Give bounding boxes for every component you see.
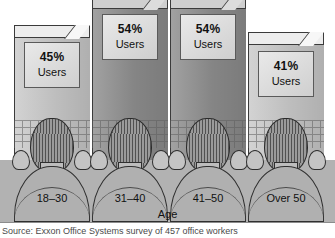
monitor-cap-bevel-3 [220, 0, 246, 10]
person-figure-2 [92, 112, 168, 222]
hand-left-3 [168, 150, 186, 170]
x-tick-label-1: 18–30 [14, 192, 90, 204]
monitor-cap-bevel-2 [142, 0, 168, 10]
hand-right-4 [308, 150, 326, 170]
bar-value-label-3: 54% [196, 23, 221, 37]
monitor-top-cap-3 [170, 0, 246, 9]
x-tick-label-4: Over 50 [248, 192, 324, 204]
bar-value-label-4: 41% [274, 60, 299, 74]
hand-left-4 [246, 150, 264, 170]
bar-users-label-2: Users [116, 38, 145, 51]
bar-users-label-3: Users [194, 38, 223, 51]
monitor-top-cap-4 [248, 32, 324, 45]
x-axis-title: Age [0, 208, 335, 220]
footer-divider [0, 222, 335, 223]
monitor-cap-bevel-4 [298, 32, 324, 46]
monitor-screen-4: 41% Users [258, 51, 314, 97]
bar-value-label-1: 45% [40, 51, 65, 65]
person-figure-1 [14, 112, 90, 222]
monitor-cap-bevel-1 [64, 25, 90, 39]
monitor-top-cap-2 [92, 0, 168, 9]
source-note: Source: Exxon Office Systems survey of 4… [2, 226, 335, 236]
person-figure-4 [248, 112, 324, 222]
x-tick-label-3: 41–50 [170, 192, 246, 204]
hand-left-1 [12, 150, 30, 170]
bar-users-label-1: Users [38, 66, 67, 79]
monitor-screen-2: 54% Users [102, 14, 158, 60]
bar-users-label-4: Users [272, 75, 301, 88]
hand-left-2 [90, 150, 108, 170]
monitor-screen-3: 54% Users [180, 14, 236, 60]
bar-value-label-2: 54% [118, 23, 143, 37]
x-tick-label-2: 31–40 [92, 192, 168, 204]
monitor-screen-1: 45% Users [24, 42, 80, 88]
monitor-top-cap-1 [14, 25, 90, 38]
users-by-age-infographic-chart: 45% Users 54% Users 54% Users 41% [0, 0, 335, 238]
person-figure-3 [170, 112, 246, 222]
